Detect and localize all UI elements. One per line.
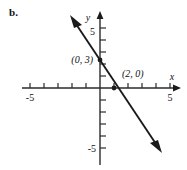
- x-axis: [22, 83, 181, 91]
- x-tick-label-negative: -5: [26, 92, 34, 103]
- x-tick-label-positive: 5: [168, 92, 173, 103]
- graph-line: [76, 24, 156, 144]
- y-tick-label-positive: 5: [90, 26, 95, 37]
- y-axis-label: y: [85, 12, 91, 23]
- point-marker-y-intercept: [98, 58, 103, 63]
- line-arrow-upper-left-icon: [70, 15, 82, 28]
- point-label-x-intercept: (2, 0): [122, 68, 144, 80]
- x-axis-arrow-icon: [173, 85, 181, 92]
- x-axis-label: x: [169, 71, 175, 82]
- coordinate-graph: y x 5 -5 -5 5 (0, 3) (2, 0): [0, 0, 187, 170]
- y-tick-label-negative: -5: [88, 143, 96, 154]
- point-marker-x-intercept: [112, 86, 117, 91]
- y-axis-arrow-icon: [97, 11, 104, 19]
- line-arrow-lower-right-icon: [150, 140, 162, 153]
- graph-line-series: [70, 15, 162, 153]
- point-label-y-intercept: (0, 3): [71, 54, 93, 66]
